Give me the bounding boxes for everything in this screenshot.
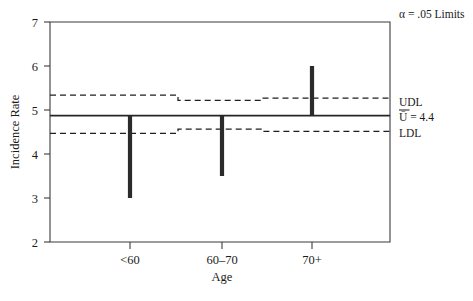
y-tick-label-5: 5 bbox=[32, 104, 38, 118]
y-tick-label-2: 2 bbox=[32, 236, 38, 250]
control-chart: 7 6 5 4 3 2 Incidence Rate <60 60–70 70+… bbox=[0, 0, 473, 301]
udl-stepped-line bbox=[50, 95, 390, 100]
y-tick-label-4: 4 bbox=[32, 148, 39, 162]
data-bars bbox=[130, 66, 312, 198]
y-axis-title: Incidence Rate bbox=[8, 94, 22, 169]
y-tick-label-7: 7 bbox=[32, 16, 38, 30]
upper-decision-limit bbox=[50, 95, 390, 100]
alpha-limits-annotation: α = .05 Limits bbox=[399, 8, 465, 20]
center-line-label: Ū = 4.4 bbox=[399, 111, 434, 123]
x-axis-title: Age bbox=[212, 270, 233, 284]
x-tick-label-60-70: 60–70 bbox=[206, 253, 237, 267]
page-footer-fragment bbox=[8, 291, 308, 301]
x-tick-label-under60: <60 bbox=[120, 253, 140, 267]
x-tick-label-70plus: 70+ bbox=[302, 253, 322, 267]
y-tick-label-3: 3 bbox=[32, 192, 38, 206]
center-line-label-group: Ū = 4.4 bbox=[399, 110, 434, 123]
y-tick-label-6: 6 bbox=[32, 60, 38, 74]
x-axis-ticks bbox=[130, 242, 312, 249]
y-axis-ticks bbox=[44, 22, 50, 242]
chart-screenshot: 7 6 5 4 3 2 Incidence Rate <60 60–70 70+… bbox=[0, 0, 473, 301]
udl-label: UDL bbox=[399, 96, 423, 108]
y-axis-tick-labels: 7 6 5 4 3 2 bbox=[32, 16, 39, 250]
x-axis-tick-labels: <60 60–70 70+ bbox=[120, 253, 322, 267]
ldl-label: LDL bbox=[399, 127, 421, 139]
